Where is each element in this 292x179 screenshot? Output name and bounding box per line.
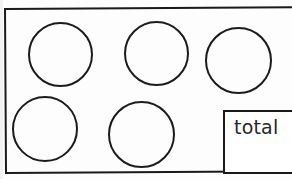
counting-circle-5[interactable] xyxy=(108,101,175,168)
worksheet-canvas: total xyxy=(0,0,292,179)
counting-circle-4[interactable] xyxy=(12,96,78,162)
total-label: total xyxy=(234,115,278,139)
counting-circle-3[interactable] xyxy=(205,27,272,94)
total-answer-box[interactable]: total xyxy=(223,110,292,174)
counting-circle-2[interactable] xyxy=(124,21,189,86)
scan-edge-shading xyxy=(0,0,3,179)
counting-circle-1[interactable] xyxy=(28,22,93,87)
